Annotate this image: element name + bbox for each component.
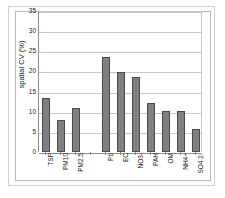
x-tick-label: PAH: [153, 153, 160, 166]
y-tick-label: 25: [14, 48, 36, 55]
bar-PM10: [57, 120, 65, 152]
x-tick-label: SO4 2-: [198, 153, 205, 174]
x-tick-label: EC: [123, 153, 130, 162]
bar-NH4+: [177, 111, 185, 152]
x-tick-label: OM: [168, 153, 175, 163]
y-tick-label: 15: [14, 88, 36, 95]
x-tick-label: NO3-: [138, 153, 145, 169]
x-tick-label: NH4+: [183, 153, 190, 170]
y-axis-tick-labels: 05101520253035: [12, 11, 36, 152]
bar-SO4 2-: [192, 129, 200, 152]
bar-TSP: [42, 98, 50, 152]
y-tick-label: 35: [14, 8, 36, 15]
y-tick-label: 10: [14, 108, 36, 115]
x-tick-label: Pb: [108, 153, 115, 161]
x-tick-label: TSP: [48, 153, 55, 166]
y-tick-label: 5: [14, 129, 36, 136]
y-tick-label: 0: [14, 149, 36, 156]
bar-EC: [117, 72, 125, 152]
y-tick-label: 30: [14, 28, 36, 35]
bar-OM: [162, 111, 170, 152]
bar-PAH: [147, 103, 155, 152]
x-tick-label: PM2.5: [78, 153, 85, 172]
bar-series: [39, 12, 201, 152]
x-axis-tick-labels: TSPPM10PM2.5PbECNO3-PAHOMNH4+SO4 2-: [38, 153, 202, 198]
bar-PM2.5: [72, 108, 80, 152]
bar-Pb: [102, 57, 110, 152]
x-tick-label: PM10: [63, 153, 70, 170]
bar-NO3-: [132, 77, 140, 152]
y-tick-label: 20: [14, 68, 36, 75]
chart-figure: spatial CV (%) 05101520253035 TSPPM10PM2…: [0, 0, 225, 198]
plot-area: [38, 11, 202, 152]
